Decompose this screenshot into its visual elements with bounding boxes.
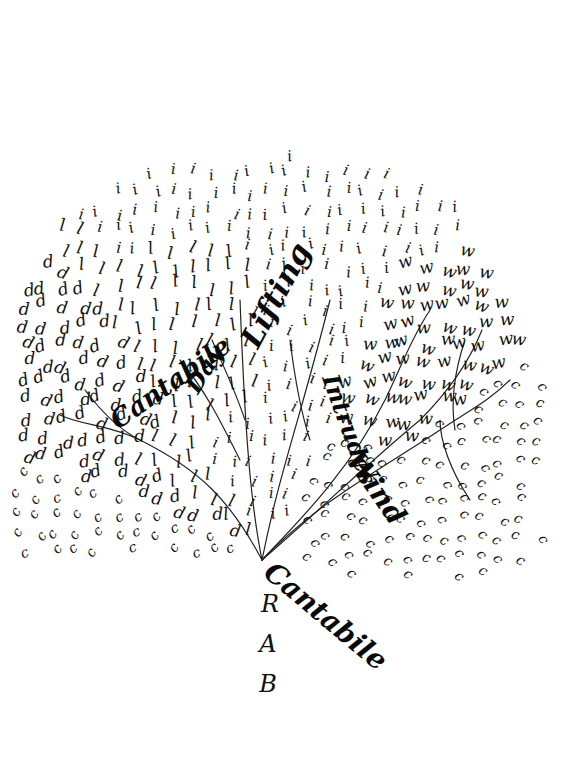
canopy-letter: i <box>114 179 123 198</box>
canopy-letters: iiiiiiiiiiiiiiiiiiiiiiiiiiiiiiiiiiiiiiii… <box>6 147 553 585</box>
canopy-letter: c <box>299 488 313 506</box>
canopy-letter: d <box>24 348 35 368</box>
canopy-letter: i <box>342 331 351 350</box>
canopy-letter: c <box>344 565 361 582</box>
canopy-letter: w <box>489 351 508 374</box>
canopy-letter: i <box>96 218 103 236</box>
canopy-letter: c <box>420 548 433 566</box>
canopy-letter: c <box>513 432 529 449</box>
canopy-letter: c <box>473 546 491 562</box>
canopy-letter: d <box>115 331 132 354</box>
canopy-letter: i <box>353 239 364 258</box>
canopy-letter: l <box>250 370 259 391</box>
canopy-letter: w <box>511 328 528 350</box>
canopy-letter: i <box>243 452 253 471</box>
canopy-letter: i <box>437 197 443 215</box>
canopy-letter: i <box>261 431 268 449</box>
canopy-letter: i <box>393 183 401 202</box>
canopy-letter: d <box>41 251 54 272</box>
canopy-letter: i <box>300 311 310 330</box>
canopy-letter: w <box>435 349 454 372</box>
canopy-letter: l <box>112 312 118 332</box>
canopy-letter: i <box>287 337 295 356</box>
canopy-letter: i <box>327 203 333 221</box>
canopy-letter: i <box>341 161 351 180</box>
canopy-letter: c <box>190 544 203 562</box>
canopy-letter: c <box>530 411 547 428</box>
canopy-letter: c <box>458 456 472 474</box>
canopy-letter: c <box>508 376 525 393</box>
canopy-letter: c <box>455 431 468 449</box>
canopy-letter: c <box>320 446 334 464</box>
canopy-letter: c <box>48 540 65 556</box>
canopy-letter: c <box>490 375 508 391</box>
canopy-letter: i <box>126 218 136 237</box>
canopy-letter: l <box>191 311 198 331</box>
canopy-letter: c <box>513 450 530 467</box>
canopy-letter: c <box>454 530 472 546</box>
canopy-letter: i <box>381 242 388 261</box>
canopy-letter: i <box>271 450 276 468</box>
canopy-letter: l <box>168 314 176 334</box>
canopy-letter: c <box>325 553 342 570</box>
canopy-letter: c <box>488 493 506 509</box>
canopy-letter: l <box>190 272 198 293</box>
canopy-letter: i <box>339 349 346 367</box>
canopy-letter: d <box>55 297 69 318</box>
canopy-letter: c <box>472 506 486 524</box>
canopy-letter: d <box>111 375 127 397</box>
canopy-letter: d <box>114 352 128 374</box>
canopy-letter: l <box>171 407 179 427</box>
canopy-letter: i <box>382 164 393 183</box>
canopy-letter: l <box>205 464 211 484</box>
canopy-letter: c <box>534 393 547 411</box>
canopy-letter: l <box>187 236 198 257</box>
canopy-letter: l <box>146 237 155 258</box>
canopy-letter: l <box>149 273 159 294</box>
canopy-letter: d <box>53 405 69 427</box>
canopy-letter: i <box>129 239 135 257</box>
canopy-letter: i <box>144 164 154 183</box>
canopy-letter: c <box>84 484 100 502</box>
canopy-letter: i <box>302 201 313 220</box>
canopy-letter: c <box>300 511 317 528</box>
canopy-letter: c <box>145 527 163 543</box>
canopy-letter: d <box>63 432 74 452</box>
canopy-letter: w <box>396 249 416 272</box>
canopy-letter: l <box>128 298 136 319</box>
canopy-letter: i <box>208 166 215 184</box>
canopy-letter: i <box>347 217 352 235</box>
canopy-letter: i <box>383 259 391 278</box>
canopy-letter: i <box>281 407 291 426</box>
canopy-letter: i <box>213 184 219 202</box>
canopy-letter: i <box>323 281 331 300</box>
canopy-letter: d <box>34 443 48 465</box>
canopy-letter: i <box>249 427 255 445</box>
canopy-letter: c <box>403 527 420 544</box>
canopy-letter: i <box>289 397 300 416</box>
canopy-letter: i <box>226 217 232 235</box>
canopy-letter: c <box>82 545 100 560</box>
canopy-letter: c <box>513 551 528 569</box>
canopy-letter: i <box>335 201 344 220</box>
canopy-letter: l <box>151 295 162 316</box>
canopy-letter: c <box>381 552 397 570</box>
canopy-letter: w <box>416 317 431 337</box>
canopy-letter: c <box>498 512 513 530</box>
canopy-letter: w <box>414 349 433 372</box>
canopy-letter: c <box>414 470 427 488</box>
canopy-letter: l <box>91 280 101 301</box>
canopy-letter: i <box>401 204 406 222</box>
canopy-letter: i <box>269 484 274 502</box>
canopy-letter: i <box>321 302 329 321</box>
canopy-letter: w <box>394 347 411 369</box>
canopy-letter: c <box>489 531 505 549</box>
canopy-letter: c <box>420 528 436 546</box>
canopy-letter: d <box>150 488 164 509</box>
canopy-letter: c <box>534 378 552 394</box>
canopy-letter: i <box>245 501 253 520</box>
canopy-letter: l <box>240 386 250 407</box>
canopy-letter: i <box>116 239 123 257</box>
canopy-letter: c <box>8 524 26 539</box>
canopy-letter: c <box>530 432 543 450</box>
